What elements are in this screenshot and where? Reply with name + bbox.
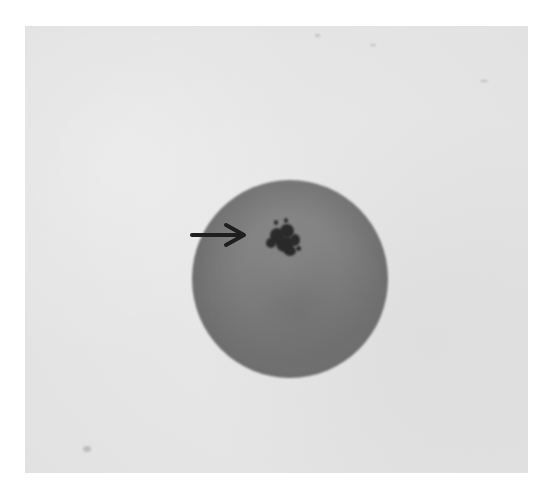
background-speck	[83, 446, 91, 452]
granule	[290, 234, 300, 246]
arrow-pointer-icon	[190, 222, 250, 248]
dark-granular-cluster	[262, 218, 306, 258]
granule	[284, 246, 296, 256]
granule	[274, 220, 278, 225]
granule	[284, 218, 288, 223]
granule	[296, 246, 301, 251]
micrograph-canvas	[0, 0, 554, 497]
granule	[266, 238, 276, 248]
background-speck	[480, 80, 488, 82]
background-speck	[370, 44, 376, 46]
micrograph-frame	[25, 26, 528, 473]
background-speck	[315, 34, 320, 37]
